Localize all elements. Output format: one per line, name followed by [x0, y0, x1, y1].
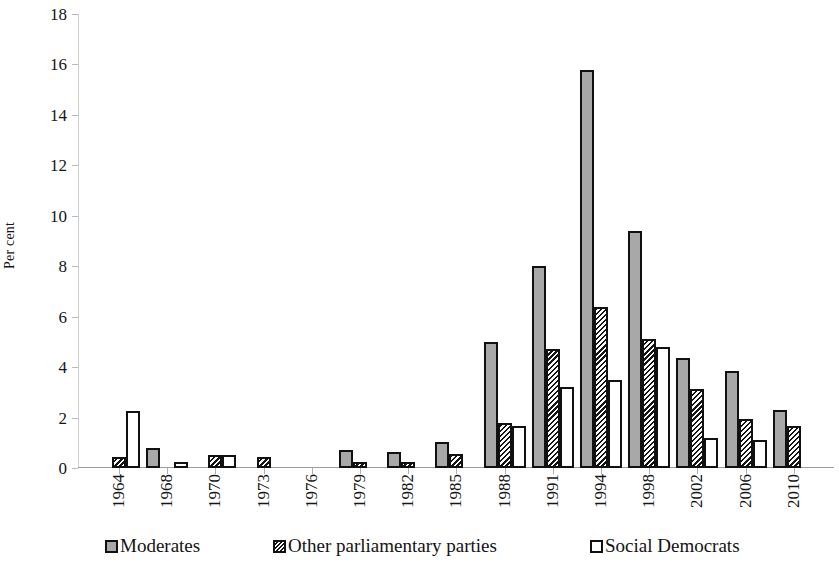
bar-1991-series-1	[546, 349, 560, 468]
x-tick-label-1979: 1979	[351, 474, 368, 508]
bar-1985-series-1	[449, 454, 463, 468]
bar-2002-series-2	[704, 438, 718, 468]
bar-group	[243, 14, 285, 468]
bar-group	[291, 14, 333, 468]
y-tick-mark	[72, 367, 78, 368]
legend-item-moderates[interactable]: Moderates	[105, 536, 200, 555]
y-tick-mark	[72, 216, 78, 217]
bar-1964-series-1	[112, 457, 126, 468]
bar-group	[387, 14, 429, 468]
x-tick-label-1991: 1991	[544, 474, 561, 508]
bar-group	[773, 14, 815, 468]
legend-item-other-parliamentary-parties[interactable]: Other parliamentary parties	[273, 536, 497, 555]
y-axis-spine	[78, 14, 79, 468]
bar-1988-series-1	[498, 423, 512, 468]
y-tick-mark	[72, 468, 78, 469]
bar-2006-series-0	[725, 371, 739, 468]
legend-swatch-icon	[105, 540, 118, 553]
legend-swatch-icon	[590, 540, 603, 553]
x-tick-label-1998: 1998	[640, 474, 657, 508]
bar-1970-series-2	[222, 455, 236, 468]
x-axis-tick-labels: 1964196819701973197619791982198519881991…	[78, 474, 834, 530]
x-tick-label-1994: 1994	[592, 474, 609, 508]
bar-1982-series-0	[387, 452, 401, 468]
x-tick-label-1982: 1982	[399, 474, 416, 508]
bar-group	[484, 14, 526, 468]
plot-area: 024681012141618	[78, 14, 834, 468]
chart-legend: ModeratesOther parliamentary partiesSoci…	[78, 536, 839, 564]
bar-1970-series-1	[208, 455, 222, 468]
y-axis-label: Per cent	[2, 190, 30, 300]
bar-2010-series-1	[787, 426, 801, 468]
bar-2006-series-2	[753, 440, 767, 468]
bar-group	[676, 14, 718, 468]
bar-1964-series-2	[126, 411, 140, 468]
chart-page: Per cent 024681012141618 196419681970197…	[0, 0, 839, 567]
bar-1988-series-2	[512, 426, 526, 468]
y-tick-mark	[72, 418, 78, 419]
bar-1988-series-0	[484, 342, 498, 468]
bar-1973-series-1	[257, 457, 271, 468]
bar-group	[725, 14, 767, 468]
bar-2002-series-0	[676, 358, 690, 468]
bar-2006-series-1	[739, 419, 753, 468]
x-tick-label-2006: 2006	[737, 474, 754, 508]
x-tick-label-1988: 1988	[496, 474, 513, 508]
legend-label: Other parliamentary parties	[288, 536, 497, 555]
legend-label: Moderates	[120, 536, 200, 555]
bar-1994-series-0	[580, 70, 594, 469]
y-tick-mark	[72, 64, 78, 65]
bar-group	[194, 14, 236, 468]
bar-1979-series-0	[339, 450, 353, 468]
bar-1991-series-2	[560, 387, 574, 468]
y-tick-mark	[72, 14, 78, 15]
y-tick-mark	[72, 165, 78, 166]
y-tick-mark	[72, 266, 78, 267]
y-tick-mark	[72, 317, 78, 318]
legend-swatch-icon	[273, 540, 286, 553]
x-tick-label-2002: 2002	[688, 474, 705, 508]
bar-1994-series-2	[608, 380, 622, 468]
bar-2010-series-0	[773, 410, 787, 468]
bar-1968-series-2	[174, 462, 188, 468]
bar-2002-series-1	[690, 389, 704, 468]
x-tick-label-1985: 1985	[447, 474, 464, 508]
x-tick-label-1973: 1973	[255, 474, 272, 508]
x-tick-label-1964: 1964	[110, 474, 127, 508]
bar-group	[98, 14, 140, 468]
bar-group	[146, 14, 188, 468]
bar-group	[628, 14, 670, 468]
x-tick-label-2010: 2010	[785, 474, 802, 508]
bar-group	[580, 14, 622, 468]
bar-1998-series-1	[642, 339, 656, 468]
legend-item-social-democrats[interactable]: Social Democrats	[590, 536, 740, 555]
x-tick-label-1968: 1968	[158, 474, 175, 508]
y-tick-mark	[72, 115, 78, 116]
bar-1991-series-0	[532, 266, 546, 468]
bar-1998-series-0	[628, 231, 642, 468]
bar-group	[339, 14, 381, 468]
legend-label: Social Democrats	[605, 536, 740, 555]
x-tick-label-1970: 1970	[206, 474, 223, 508]
bar-1998-series-2	[656, 347, 670, 468]
bar-1968-series-0	[146, 448, 160, 468]
x-tick-label-1976: 1976	[303, 474, 320, 508]
bar-1985-series-0	[435, 442, 449, 468]
bar-group	[435, 14, 477, 468]
bar-1994-series-1	[594, 307, 608, 468]
bar-group	[532, 14, 574, 468]
